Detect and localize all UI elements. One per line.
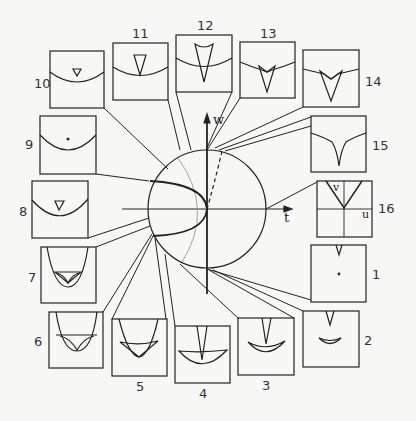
panel-3 [238, 318, 294, 375]
panel-label-15: 15 [372, 138, 389, 153]
inset-v-label: v [332, 181, 340, 194]
w-axis-arrow-icon [204, 114, 210, 123]
panel-label-12: 12 [197, 18, 214, 33]
w-axis-label: w [213, 112, 224, 127]
panel-9 [40, 116, 96, 174]
panel-14 [303, 50, 359, 107]
panel-6 [49, 312, 103, 368]
panel-label-4: 4 [199, 386, 207, 401]
panel-label-14: 14 [365, 74, 382, 89]
panel-label-3: 3 [262, 378, 270, 393]
panel-12 [176, 35, 232, 92]
bifurcation-diagram: w t v u 10 11 12 13 14 15 16 1 2 3 4 5 6… [0, 0, 416, 421]
t-axis-label: t [284, 210, 290, 225]
panel-7 [41, 247, 96, 303]
panel-1 [311, 245, 366, 302]
panel-label-11: 11 [132, 26, 149, 41]
panel-15 [311, 116, 366, 172]
panel-label-6: 6 [34, 334, 42, 349]
inset-u-label: u [362, 208, 369, 221]
panel-label-9: 9 [25, 137, 33, 152]
dashed-curve [207, 151, 222, 209]
panel-13 [240, 42, 295, 98]
panel-label-13: 13 [260, 26, 277, 41]
panel-label-2: 2 [364, 333, 372, 348]
panel-label-8: 8 [19, 204, 27, 219]
panel-5 [112, 319, 167, 376]
panel-2 [303, 311, 359, 367]
panel-11 [113, 43, 168, 100]
grey-curve [178, 158, 198, 262]
panel-8 [32, 181, 88, 238]
panel-label-1: 1 [372, 267, 380, 282]
panel-label-16: 16 [378, 201, 395, 216]
panel-10 [50, 51, 104, 108]
parameter-plane [122, 114, 292, 294]
panel-label-10: 10 [34, 76, 51, 91]
panel-label-7: 7 [28, 270, 36, 285]
panel-4 [175, 326, 230, 383]
panel-label-5: 5 [136, 379, 144, 394]
